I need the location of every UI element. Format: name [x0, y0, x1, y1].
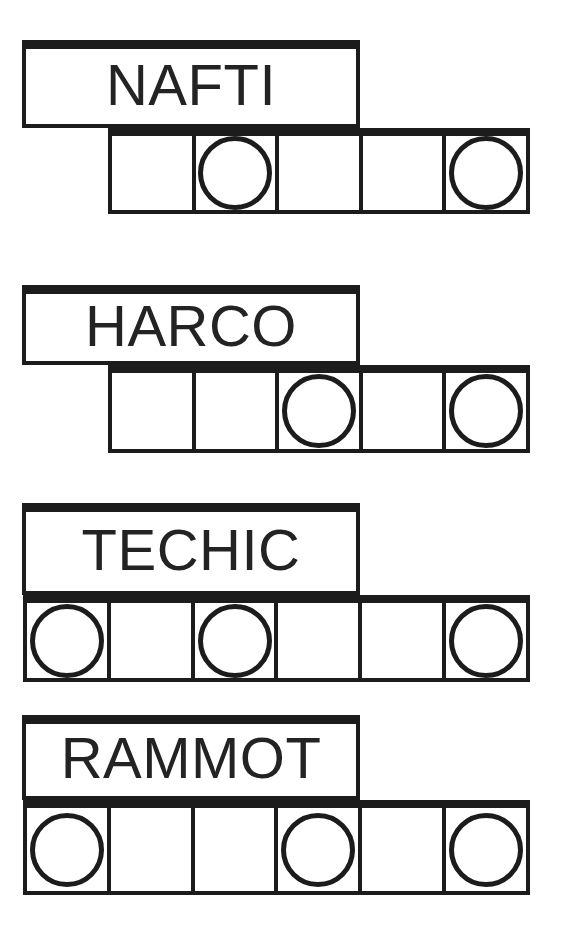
answer-grid [23, 800, 530, 895]
answer-cell[interactable] [279, 373, 363, 449]
answer-cell[interactable] [362, 808, 446, 891]
answer-cell[interactable] [196, 136, 280, 210]
circle-icon [281, 813, 355, 887]
word-box: HARCO [22, 285, 360, 365]
answer-grid [108, 128, 530, 214]
circle-icon [30, 813, 104, 887]
scrambled-word: NAFTI [106, 56, 276, 118]
answer-cell[interactable] [112, 136, 196, 210]
scrambled-word: RAMMOT [61, 729, 322, 791]
circle-icon [449, 604, 523, 678]
answer-cell[interactable] [446, 136, 526, 210]
answer-grid [108, 365, 530, 453]
circle-icon [449, 374, 523, 448]
answer-cell[interactable] [362, 603, 446, 678]
circle-icon [449, 813, 523, 887]
answer-cell[interactable] [111, 808, 195, 891]
circle-icon [30, 604, 104, 678]
answer-cell[interactable] [196, 373, 280, 449]
answer-cell[interactable] [27, 603, 111, 678]
scrambled-word: TECHIC [82, 521, 301, 583]
answer-cell[interactable] [279, 136, 363, 210]
answer-cell[interactable] [27, 808, 111, 891]
answer-cell[interactable] [363, 373, 447, 449]
answer-cell[interactable] [363, 136, 447, 210]
circle-icon [198, 604, 272, 678]
answer-cell[interactable] [446, 808, 526, 891]
answer-cell[interactable] [112, 373, 196, 449]
circle-icon [282, 374, 356, 448]
answer-cell[interactable] [446, 373, 526, 449]
answer-cell[interactable] [111, 603, 195, 678]
word-box: RAMMOT [22, 715, 360, 800]
word-box: NAFTI [22, 40, 360, 128]
answer-cell[interactable] [195, 603, 279, 678]
answer-cell[interactable] [446, 603, 526, 678]
circle-icon [449, 136, 523, 210]
answer-cell[interactable] [195, 808, 279, 891]
circle-icon [198, 136, 272, 210]
answer-grid [23, 595, 530, 682]
answer-cell[interactable] [278, 603, 362, 678]
word-box: TECHIC [22, 503, 360, 595]
answer-cell[interactable] [278, 808, 362, 891]
scrambled-word: HARCO [85, 297, 297, 359]
puzzle-sheet: NAFTIHARCOTECHICRAMMOT [0, 0, 574, 927]
